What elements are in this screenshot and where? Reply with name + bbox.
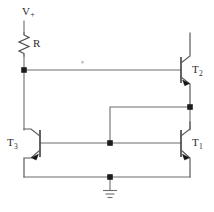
supply-label-text: V (22, 5, 30, 17)
t1-collector-lead (181, 122, 190, 136)
junction-dot-top-left (21, 67, 27, 73)
top-rail (24, 61, 181, 70)
circuit-diagram: V+ R T2 T3 T1 (0, 0, 214, 212)
supply-label-sign: + (30, 10, 35, 19)
feedback-path (110, 107, 190, 143)
supply-label: V+ (22, 6, 34, 17)
resistor-label: R (33, 38, 40, 49)
rail-speck (82, 61, 84, 63)
t3-label-index: 3 (14, 142, 18, 151)
transistor-t3-label: T3 (7, 137, 17, 148)
transistor-t1-symbol (181, 122, 190, 177)
transistor-t1-label: T1 (192, 137, 202, 148)
resistor-label-text: R (33, 37, 40, 49)
supply-branch (19, 21, 29, 70)
junction-dot-ground (107, 174, 113, 180)
t1-label-text: T (192, 136, 199, 148)
junction-dots (21, 67, 193, 180)
schematic-canvas (0, 0, 214, 212)
feedback-wire (110, 107, 190, 143)
transistor-t3-symbol (24, 129, 40, 177)
transistor-t2-symbol (181, 33, 190, 107)
resistor-zigzag (19, 33, 29, 56)
t3-emitter-lead (24, 150, 40, 177)
t2-collector-lead (181, 33, 190, 63)
t2-label-text: T (192, 63, 199, 75)
ground-symbol (103, 177, 117, 198)
t2-label-index: 2 (199, 69, 203, 78)
t1-label-index: 1 (199, 142, 203, 151)
t3-collector-lead (24, 129, 40, 136)
transistor-t2-label: T2 (192, 64, 202, 75)
junction-dot-base-mid (107, 140, 113, 146)
junction-dot-right-mid (187, 104, 193, 110)
t3-label-text: T (7, 136, 14, 148)
